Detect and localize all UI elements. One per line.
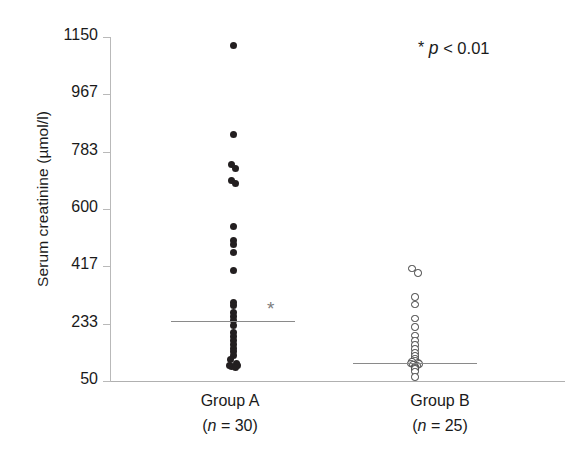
- data-point: [230, 249, 237, 256]
- y-tick-mark: [103, 381, 111, 382]
- y-tick-label: 1150: [28, 26, 98, 44]
- y-tick-mark: [103, 94, 111, 95]
- y-tick-label: 967: [28, 83, 98, 101]
- data-point: [230, 42, 237, 49]
- median-line-group-a: [171, 321, 295, 322]
- data-point: [230, 322, 237, 329]
- data-point: [414, 269, 422, 277]
- p-value-text: < 0.01: [439, 39, 490, 57]
- p-value-asterisk: *: [418, 39, 424, 56]
- dot-plot-figure: Serum creatinine (µmol/l) 50233417600783…: [0, 0, 573, 456]
- p-value-annotation: * p < 0.01: [418, 38, 489, 59]
- data-point: [230, 223, 237, 230]
- data-point: [230, 131, 237, 138]
- y-tick-label: 783: [28, 141, 98, 159]
- y-tick-label: 50: [28, 370, 98, 388]
- y-tick-mark: [103, 324, 111, 325]
- y-tick-mark: [103, 37, 111, 38]
- group-label-a: Group A: [130, 392, 330, 410]
- data-point: [411, 323, 419, 331]
- group-b-n-value: = 25): [426, 417, 467, 434]
- data-point: [411, 293, 419, 301]
- median-line-group-b: [353, 363, 477, 364]
- group-a-n-value: = 30): [216, 417, 257, 434]
- data-point: [411, 315, 419, 323]
- data-point: [232, 180, 239, 187]
- y-tick-mark: [103, 209, 111, 210]
- group-sublabel-a: (n = 30): [130, 417, 330, 435]
- p-symbol: p: [429, 38, 439, 58]
- data-point: [230, 267, 237, 274]
- y-tick-label: 600: [28, 198, 98, 216]
- y-tick-label: 233: [28, 313, 98, 331]
- data-point: [232, 364, 239, 371]
- data-point: [232, 165, 239, 172]
- y-tick-mark: [103, 266, 111, 267]
- data-point: [230, 241, 237, 248]
- y-tick-mark: [103, 152, 111, 153]
- data-point: [230, 302, 237, 309]
- group-sublabel-b: (n = 25): [340, 417, 540, 435]
- data-point: [411, 301, 419, 309]
- group-label-b: Group B: [340, 392, 540, 410]
- y-tick-label: 417: [28, 255, 98, 273]
- x-axis-spine: [110, 381, 565, 382]
- significance-asterisk-group-a: *: [267, 299, 274, 318]
- data-point: [411, 373, 419, 381]
